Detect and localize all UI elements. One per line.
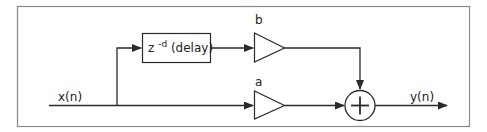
summer-node xyxy=(345,91,375,121)
gain-b-label: b xyxy=(255,13,263,27)
delay-suffix: (delay) xyxy=(171,41,213,55)
delay-base: z xyxy=(148,41,154,55)
output-label: y(n) xyxy=(410,90,434,104)
comb-filter-diagram: x(n) z -d (delay) b a y(n) xyxy=(0,0,487,132)
input-label: x(n) xyxy=(58,90,82,104)
delay-exponent: -d xyxy=(158,39,167,49)
gain-a-label: a xyxy=(255,75,262,89)
diagram-frame xyxy=(18,7,470,127)
